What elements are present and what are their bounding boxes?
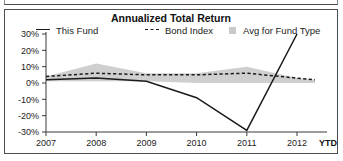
x-tick-label-ytd: YTD bbox=[319, 138, 338, 148]
x-tick-label: 2010 bbox=[187, 138, 207, 148]
x-tick-label: 2007 bbox=[36, 138, 56, 148]
plot-area-wrapper: 30%20%10%0%-10%-20%-30% 2007200820092010… bbox=[5, 10, 339, 155]
y-tick-label: 0% bbox=[26, 78, 39, 88]
y-tick-label: -20% bbox=[18, 111, 39, 121]
x-axis-ticks bbox=[46, 132, 297, 136]
y-tick-label: -30% bbox=[18, 127, 39, 137]
y-axis-tick-labels: 30%20%10%0%-10%-20%-30% bbox=[18, 29, 39, 137]
x-tick-label: 2011 bbox=[237, 138, 256, 148]
y-tick-label: -10% bbox=[18, 95, 39, 105]
upper-panel-edge bbox=[4, 0, 338, 5]
y-tick-label: 30% bbox=[21, 29, 39, 39]
x-tick-label: 2009 bbox=[136, 138, 156, 148]
x-tick-label: 2012 bbox=[287, 138, 307, 148]
y-tick-label: 10% bbox=[21, 62, 39, 72]
x-tick-label: 2008 bbox=[86, 138, 106, 148]
y-axis-ticks bbox=[42, 34, 46, 132]
chart-panel: Annualized Total Return This Fund Bond I… bbox=[4, 9, 338, 154]
y-tick-label: 20% bbox=[21, 46, 39, 56]
fund-performance-chart-widget: Annualized Total Return This Fund Bond I… bbox=[0, 0, 343, 161]
x-axis-tick-labels: 200720082009201020112012YTD bbox=[36, 138, 338, 148]
annualized-total-return-plot: 30%20%10%0%-10%-20%-30% 2007200820092010… bbox=[5, 10, 339, 155]
